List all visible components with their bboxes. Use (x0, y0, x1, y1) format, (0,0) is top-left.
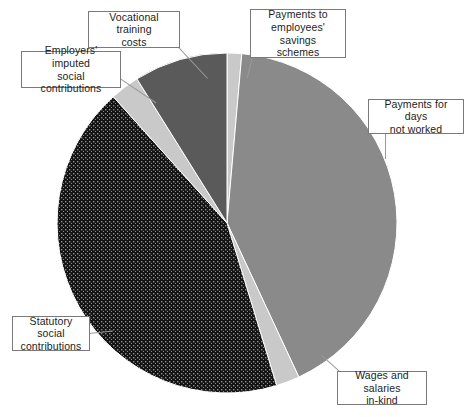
label-text-savings: Payments to employees' savings schemes (255, 8, 341, 58)
label-vocational-training-costs: Vocational training costs (88, 11, 180, 48)
label-statutory-social-contributions: Statutory social contributions (12, 316, 90, 351)
pie-slice-group (57, 53, 397, 393)
label-employers-imputed-social-contributions: Employers' imputed social contributions (21, 51, 121, 88)
label-text-statutory: Statutory social contributions (17, 315, 85, 353)
label-text-employers: Employers' imputed social contributions (26, 44, 116, 94)
label-text-days-not-worked: Payments for days not worked (373, 98, 459, 136)
leader-line-days-not-worked (385, 133, 386, 159)
label-text-vocational: Vocational training costs (93, 11, 175, 49)
label-text-wages: Wages and salaries in-kind (342, 369, 422, 407)
pie-chart-figure: Vocational training costs Employers' imp… (0, 0, 468, 417)
label-payments-for-days-not-worked: Payments for days not worked (368, 99, 464, 134)
label-payments-to-employees-savings-schemes: Payments to employees' savings schemes (250, 9, 346, 58)
label-wages-and-salaries-in-kind: Wages and salaries in-kind (337, 371, 427, 405)
